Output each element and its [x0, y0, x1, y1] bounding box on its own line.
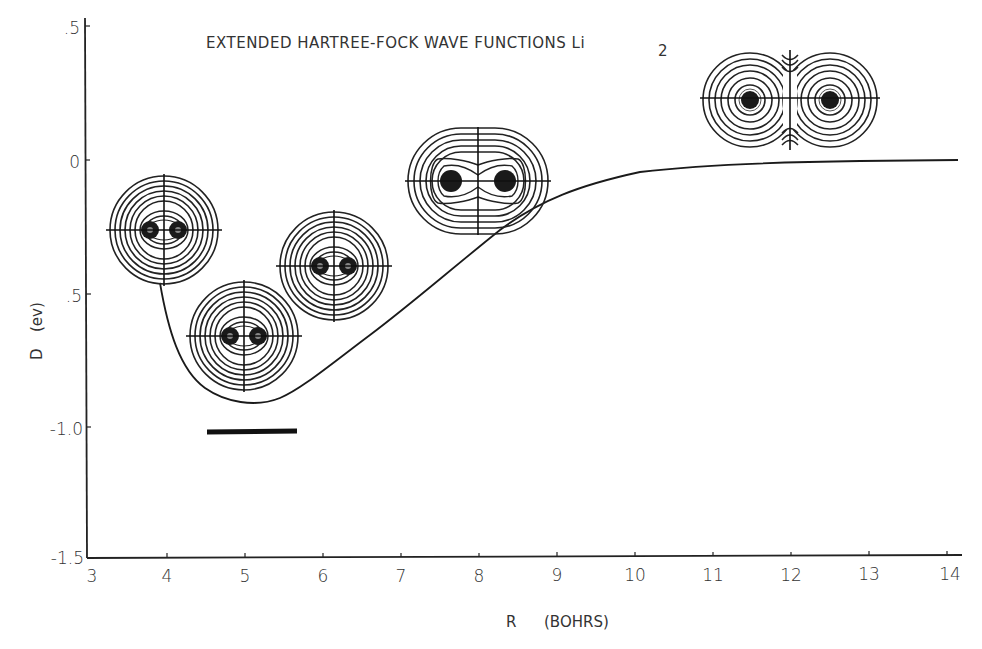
density-contour-R5: [186, 280, 302, 392]
x-tick-label: 13: [858, 564, 880, 584]
x-axis-unit: (BOHRS): [544, 613, 609, 631]
y-axis-unit: (ev): [28, 302, 46, 332]
potential-curve: [160, 160, 958, 403]
y-tick-label: .5: [66, 286, 82, 306]
chart-title-main: EXTENDED HARTREE-FOCK WAVE FUNCTIONS Li: [206, 34, 585, 52]
y-tick-label: -1.5: [51, 548, 84, 568]
x-tick-labels: 3 4 5 6 7 8 9 10 11 12 13 14: [87, 564, 961, 586]
x-tick-label: 14: [939, 564, 961, 584]
x-tick-label: 12: [780, 565, 802, 585]
x-tick-label: 6: [318, 566, 329, 586]
x-tick-label: 9: [552, 565, 563, 585]
x-tick-label: 3: [87, 566, 98, 586]
potential-energy-chart: .5 0 .5 -1.0 -1.5 3 4 5 6 7 8 9 10 11 12…: [0, 0, 982, 649]
x-tick-label: 8: [474, 566, 485, 586]
x-tick-label: 5: [240, 566, 251, 586]
x-tick-label: 10: [624, 565, 646, 585]
y-tick-label: 0: [69, 152, 80, 172]
x-axis-title: R (BOHRS): [506, 613, 609, 631]
x-tick-label: 11: [702, 565, 724, 585]
density-contour-R4: [106, 174, 222, 286]
y-axis: [85, 18, 91, 558]
density-contour-R12: [700, 50, 880, 150]
y-axis-symbol: D: [28, 348, 46, 360]
density-contour-R6: [276, 210, 392, 322]
density-contour-R8: [405, 127, 551, 235]
x-axis-symbol: R: [506, 613, 516, 631]
chart-title: EXTENDED HARTREE-FOCK WAVE FUNCTIONS Li …: [206, 34, 668, 60]
y-tick-label: -1.0: [50, 419, 83, 439]
reference-bar: [207, 431, 297, 432]
x-tick-label: 7: [396, 566, 407, 586]
y-axis-title: D (ev): [28, 302, 46, 360]
chart-title-subscript: 2: [658, 42, 668, 60]
y-tick-label: .5: [64, 18, 80, 38]
x-tick-label: 4: [162, 566, 173, 586]
x-axis: [87, 551, 962, 558]
